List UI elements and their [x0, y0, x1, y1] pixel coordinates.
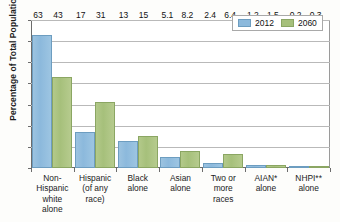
y-axis-title: Percentage of Total Population [8, 0, 18, 132]
x-axis-label: NHPI**alone [287, 173, 330, 194]
bar-rect[interactable]: 43 [52, 77, 72, 168]
x-axis-label-line: alone [116, 183, 159, 193]
x-axis-label-line: race) [74, 194, 117, 204]
x-axis-label: Non-Hispanicwhitealone [31, 173, 74, 215]
x-tick-mark [245, 168, 246, 172]
x-axis-labels: Non-HispanicwhitealoneHispanic(of anyrac… [31, 173, 330, 222]
bar-group: 1731 [74, 20, 117, 168]
bar-value-label: 2.4 [204, 11, 216, 20]
x-axis-label-line: Asian [159, 173, 202, 183]
x-axis-label-line: alone [159, 183, 202, 193]
x-tick-mark [202, 168, 203, 172]
bar-2012[interactable]: 63 [32, 20, 52, 168]
x-axis-label: Hispanic(of anyrace) [74, 173, 117, 204]
bar-group: 2.46.4 [202, 20, 245, 168]
x-tick-mark [74, 168, 75, 172]
bar-rect[interactable]: 1.2 [246, 165, 266, 168]
x-axis-label-line: more [202, 183, 245, 193]
bar-2012[interactable]: 17 [75, 20, 95, 168]
bar-2060[interactable]: 8.2 [180, 20, 200, 168]
bar-value-label: 43 [53, 11, 62, 20]
x-axis-label-line: Black [116, 173, 159, 183]
bar-rect[interactable]: 31 [95, 102, 115, 168]
legend-label-2012: 2012 [255, 18, 274, 28]
x-axis-label: Blackalone [116, 173, 159, 194]
bar-rect[interactable]: 6.4 [223, 154, 243, 168]
bar-group: 1315 [116, 20, 159, 168]
bar-value-label: 5.1 [161, 11, 173, 20]
bar-2060[interactable]: 0.3 [309, 20, 329, 168]
legend-item-2012: 2012 [238, 18, 274, 28]
legend-item-2060: 2060 [281, 18, 317, 28]
bar-value-label: 17 [76, 11, 85, 20]
legend-swatch-2060 [281, 19, 294, 27]
x-axis-label-line: Hispanic [31, 183, 74, 193]
bar-2012[interactable]: 0.2 [289, 20, 309, 168]
x-axis-label: Asianalone [159, 173, 202, 194]
bar-rect[interactable]: 2.4 [203, 163, 223, 168]
x-axis-label-line: NHPI** [287, 173, 330, 183]
x-axis-label-line: alone [287, 183, 330, 193]
x-axis-label-line: alone [31, 204, 74, 214]
bar-2012[interactable]: 2.4 [203, 20, 223, 168]
bar-rect[interactable]: 63 [32, 35, 52, 168]
bar-rect[interactable]: 5.1 [160, 157, 180, 168]
bar-2060[interactable]: 15 [138, 20, 158, 168]
legend-label-2060: 2060 [298, 18, 317, 28]
x-tick-mark [116, 168, 117, 172]
bar-value-label: 13 [119, 11, 128, 20]
x-axis-label-line: white [31, 194, 74, 204]
x-tick-mark [31, 168, 32, 172]
bar-2012[interactable]: 5.1 [160, 20, 180, 168]
bar-2060[interactable]: 1.5 [266, 20, 286, 168]
legend-swatch-2012 [238, 19, 251, 27]
chart-legend: 2012 2060 [232, 15, 323, 31]
x-tick-mark [159, 168, 160, 172]
x-axis-label-line: (of any [74, 183, 117, 193]
bar-2012[interactable]: 13 [118, 20, 138, 168]
bar-rect[interactable]: 13 [118, 141, 138, 168]
bar-2012[interactable]: 1.2 [246, 20, 266, 168]
plot-area: 010203040506070 6343173113155.18.22.46.4… [31, 20, 330, 168]
x-tick-mark [330, 168, 331, 172]
bar-group: 5.18.2 [159, 20, 202, 168]
bar-value-label: 63 [33, 11, 42, 20]
bar-rect[interactable]: 15 [138, 136, 158, 168]
x-axis-label-line: Non- [31, 173, 74, 183]
bar-value-label: 8.2 [181, 11, 193, 20]
bar-group: 1.21.5 [245, 20, 288, 168]
x-axis-label: AIAN*alone [245, 173, 288, 194]
x-axis-label-line: AIAN* [245, 173, 288, 183]
x-axis-label-line: alone [245, 183, 288, 193]
x-axis-label-line: races [202, 194, 245, 204]
bar-2060[interactable]: 31 [95, 20, 115, 168]
bar-rect[interactable]: 1.5 [266, 165, 286, 168]
bar-rect[interactable]: 8.2 [180, 151, 200, 168]
x-axis-label-line: Hispanic [74, 173, 117, 183]
x-axis-label-line: Two or [202, 173, 245, 183]
bar-value-label: 15 [139, 11, 148, 20]
x-tick-mark [287, 168, 288, 172]
bar-chart: Percentage of Total Population 010203040… [0, 0, 340, 222]
bar-value-label: 31 [96, 11, 105, 20]
bar-rect[interactable]: 17 [75, 132, 95, 168]
bar-rect[interactable]: 0.2 [289, 166, 309, 168]
x-axis-label: Two ormoreraces [202, 173, 245, 204]
bar-2060[interactable]: 6.4 [223, 20, 243, 168]
bar-group: 0.20.3 [287, 20, 330, 168]
bar-rect[interactable]: 0.3 [309, 166, 329, 168]
bar-group: 6343 [31, 20, 74, 168]
bar-2060[interactable]: 43 [52, 20, 72, 168]
